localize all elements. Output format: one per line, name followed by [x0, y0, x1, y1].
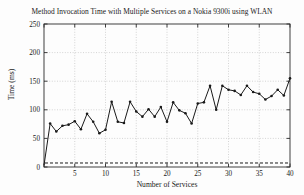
x-tick-label: 40: [286, 170, 294, 178]
x-tick-label: 20: [163, 170, 171, 178]
chart-figure: Method Invocation Time with Multiple Ser…: [0, 0, 304, 195]
y-axis-ticks: 050100150200250: [29, 21, 290, 172]
x-tick-label: 35: [256, 170, 264, 178]
x-tick-label: 15: [133, 170, 141, 178]
grid-lines: [44, 24, 290, 167]
y-tick-label: 50: [33, 135, 41, 143]
y-tick-label: 150: [29, 78, 40, 86]
x-tick-label: 5: [73, 170, 77, 178]
y-tick-label: 100: [29, 106, 40, 114]
y-tick-label: 250: [29, 21, 40, 29]
x-tick-label: 10: [102, 170, 110, 178]
x-tick-label: 30: [225, 170, 233, 178]
data-series: [44, 77, 291, 165]
x-axis-ticks: 510152025303540: [44, 24, 294, 178]
plot-area: 050100150200250 510152025303540: [0, 0, 304, 195]
y-tick-label: 200: [29, 49, 40, 57]
y-tick-label: 0: [36, 164, 40, 172]
chart-screenshot: Method Invocation Time with Multiple Ser…: [0, 0, 304, 195]
x-tick-label: 25: [194, 170, 202, 178]
